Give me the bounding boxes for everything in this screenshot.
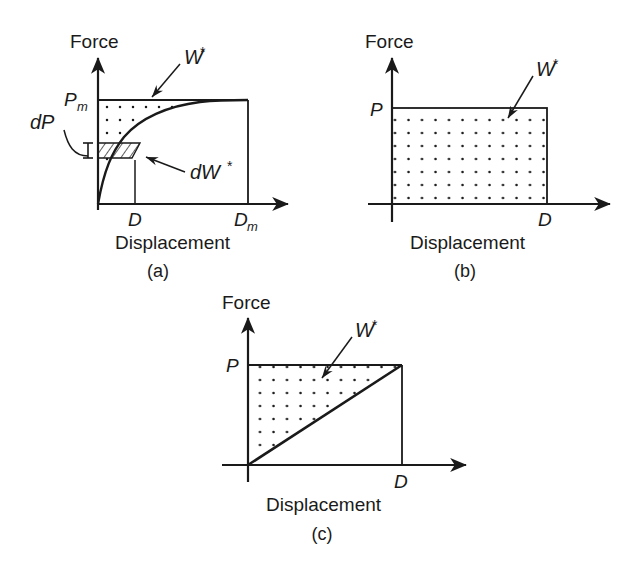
panel-a-w-star-arrow <box>152 64 180 97</box>
panel-a-dw-star-asterisk: * <box>227 158 233 174</box>
panel-c-w-star-label: W * <box>355 317 378 341</box>
panel-a-y-axis-label: Force <box>70 31 119 52</box>
panel-a: Force Displacement P m D D m W * dW * dP… <box>30 31 288 281</box>
panel-a-caption: (a) <box>147 261 169 281</box>
panel-b-y-axis-label: Force <box>365 31 414 52</box>
panel-a-dw-star-label: dW * <box>190 158 233 183</box>
panel-b-w-star-label: W * <box>536 56 559 80</box>
panel-a-dw-star-arrow <box>146 157 185 172</box>
panel-a-w-star-label: W * <box>184 44 206 68</box>
panel-b-w-star-asterisk: * <box>553 56 559 72</box>
panel-a-y-tick-label: P m <box>64 89 88 114</box>
panel-a-x-tick-d: D <box>128 209 142 230</box>
panel-a-x-tick-dm-sub: m <box>247 219 258 234</box>
panel-c-caption: (c) <box>312 524 333 544</box>
panel-a-y-tick-sub: m <box>77 99 88 114</box>
panel-b-caption: (b) <box>454 261 476 281</box>
figure-container: Force Displacement P m D D m W * dW * dP… <box>0 0 643 571</box>
panel-a-x-tick-dm-base: D <box>234 209 248 230</box>
panel-c-y-tick-label: P <box>226 355 239 376</box>
panel-c-x-tick-label: D <box>394 471 408 492</box>
panel-b-y-tick-label: P <box>370 99 383 120</box>
panel-b-w-star-region <box>392 108 547 204</box>
panel-b-x-axis-label: Displacement <box>410 232 526 253</box>
panel-b: Force Displacement P D W * (b) <box>365 31 610 281</box>
panel-a-dp-label: dP <box>30 111 55 133</box>
panel-a-y-tick-base: P <box>64 89 77 110</box>
panel-a-dw-star-base: dW <box>190 161 222 183</box>
panel-c: Force Displacement P D W * (c) <box>222 292 466 544</box>
panel-a-w-star-asterisk: * <box>200 44 206 60</box>
panel-b-x-tick-label: D <box>538 209 552 230</box>
panel-a-x-axis-label: Displacement <box>115 232 231 253</box>
panel-c-x-axis-label: Displacement <box>266 494 382 515</box>
panel-a-x-tick-dm: D m <box>234 209 258 234</box>
panel-c-w-star-asterisk: * <box>372 317 378 333</box>
panel-c-y-axis-label: Force <box>222 292 271 313</box>
